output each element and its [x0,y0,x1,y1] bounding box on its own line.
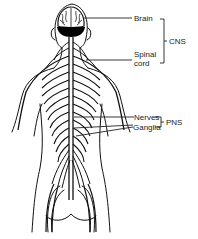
brain-drawing [57,7,85,37]
label-ganglia: Ganglia [133,123,161,132]
label-nerves: Nerves [134,113,159,122]
label-cord: cord [134,59,150,68]
label-brain: Brain [134,14,153,23]
label-cns: CNS [169,37,186,46]
label-spinal: Spinal [134,50,156,59]
label-pns: PNS [166,118,182,127]
